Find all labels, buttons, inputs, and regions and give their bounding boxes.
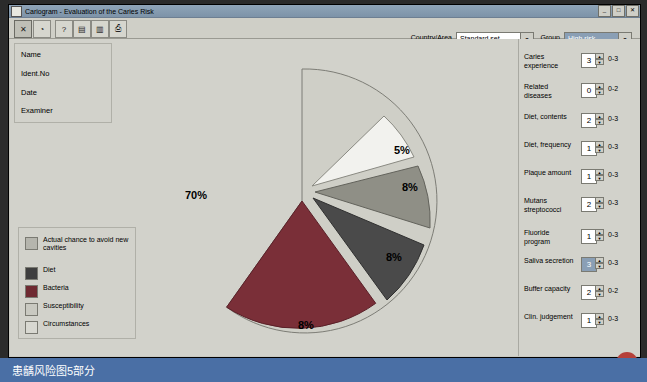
pie-label-circumstances: 5% — [394, 144, 410, 156]
legend: Actual chance to avoid new cavities Diet… — [18, 227, 136, 339]
param-row-diet-contents: Diet, contents 2 ▲ ▼ 0-3 — [519, 111, 640, 137]
maximize-button[interactable]: □ — [612, 5, 625, 17]
legend-label-chance: Actual chance to avoid new cavities — [43, 236, 131, 252]
field-name[interactable]: Name — [21, 50, 41, 59]
param-label-related-diseases: Related diseases — [524, 83, 574, 100]
legend-swatch-chance — [25, 237, 38, 250]
param-label-plaque-amount: Plaque amount — [524, 169, 574, 178]
param-spinner-buffer-capacity[interactable]: ▲ ▼ — [595, 285, 604, 298]
spinner-down-clin-judgement[interactable]: ▼ — [595, 319, 604, 325]
copy-icon[interactable]: ▥ — [91, 20, 109, 38]
pie-svg — [162, 61, 442, 341]
param-spinner-diet-frequency[interactable]: ▲ ▼ — [595, 141, 604, 154]
legend-swatch-bacteria — [25, 285, 38, 298]
param-spinner-clin-judgement[interactable]: ▲ ▼ — [595, 313, 604, 326]
param-range-caries-experience: 0-3 — [608, 55, 618, 62]
legend-swatch-circumstances — [25, 321, 38, 334]
param-row-buffer-capacity: Buffer capacity 2 ▲ ▼ 0-2 — [519, 283, 640, 309]
param-label-caries-experience: Caries experience — [524, 53, 574, 70]
spinner-down-mutans-streptococci[interactable]: ▼ — [595, 203, 604, 209]
param-spinner-diet-contents[interactable]: ▲ ▼ — [595, 113, 604, 126]
caption-bar: 患龋风险图5部分 — [0, 358, 647, 382]
legend-item-circumstances: Circumstances — [25, 320, 89, 334]
legend-swatch-diet — [25, 267, 38, 280]
legend-label-diet: Diet — [43, 266, 55, 274]
patient-form: Name Ident.No Date Examiner — [14, 43, 112, 123]
spinner-down-related-diseases[interactable]: ▼ — [595, 89, 604, 95]
spinner-down-saliva-secretion[interactable]: ▼ — [595, 263, 604, 269]
screenshot-root: Cariogram - Evaluation of the Caries Ris… — [0, 0, 647, 382]
param-row-plaque-amount: Plaque amount 1 ▲ ▼ 0-3 — [519, 167, 640, 193]
field-identno[interactable]: Ident.No — [21, 69, 49, 78]
pie-label-70: 70% — [185, 189, 207, 201]
param-range-mutans-streptococci: 0-3 — [608, 199, 618, 206]
pie-label-susceptibility: 8% — [402, 181, 418, 193]
field-date[interactable]: Date — [21, 88, 37, 97]
param-range-diet-frequency: 0-3 — [608, 143, 618, 150]
param-spinner-saliva-secretion[interactable]: ▲ ▼ — [595, 257, 604, 270]
spinner-down-plaque-amount[interactable]: ▼ — [595, 175, 604, 181]
spinner-down-diet-frequency[interactable]: ▼ — [595, 147, 604, 153]
param-label-diet-frequency: Diet, frequency — [524, 141, 574, 150]
legend-item-chance: Actual chance to avoid new cavities — [25, 236, 131, 252]
minimize-button[interactable]: _ — [598, 5, 611, 17]
application-window: Cariogram - Evaluation of the Caries Ris… — [8, 4, 641, 358]
spinner-down-caries-experience[interactable]: ▼ — [595, 59, 604, 65]
legend-label-bacteria: Bacteria — [43, 284, 69, 292]
chart-area: Name Ident.No Date Examiner — [10, 39, 518, 356]
param-spinner-caries-experience[interactable]: ▲ ▼ — [595, 53, 604, 66]
new-document-icon[interactable]: ✕ — [14, 20, 32, 38]
field-examiner[interactable]: Examiner — [21, 106, 53, 115]
title-bar: Cariogram - Evaluation of the Caries Ris… — [9, 5, 640, 18]
param-spinner-related-diseases[interactable]: ▲ ▼ — [595, 83, 604, 96]
spinner-down-fluoride-program[interactable]: ▼ — [595, 235, 604, 241]
legend-label-circumstances: Circumstances — [43, 320, 89, 328]
window-buttons: _ □ ✕ — [598, 5, 639, 17]
parameters-panel: Caries experience 3 ▲ ▼ 0-3 Related dise… — [518, 39, 640, 356]
param-row-related-diseases: Related diseases 0 ▲ ▼ 0-2 — [519, 81, 640, 107]
param-row-fluoride-program: Fluoride program 1 ▲ ▼ 0-3 — [519, 227, 640, 253]
pie-label-bacteria: 8% — [298, 319, 314, 331]
window-title: Cariogram - Evaluation of the Caries Ris… — [25, 8, 154, 15]
legend-item-bacteria: Bacteria — [25, 284, 69, 298]
param-range-saliva-secretion: 0-3 — [608, 259, 618, 266]
param-range-diet-contents: 0-3 — [608, 115, 618, 122]
app-icon — [11, 6, 22, 17]
param-range-plaque-amount: 0-3 — [608, 171, 618, 178]
param-row-saliva-secretion: Saliva secretion 3 ▲ ▼ 0-3 — [519, 255, 640, 281]
print-icon[interactable]: ⎙ — [109, 20, 127, 38]
param-label-saliva-secretion: Saliva secretion — [524, 257, 574, 266]
pie-chart-icon[interactable]: ◔ — [33, 20, 51, 38]
legend-item-diet: Diet — [25, 266, 55, 280]
param-spinner-plaque-amount[interactable]: ▲ ▼ — [595, 169, 604, 182]
param-label-mutans-streptococci: Mutans streptococci — [524, 197, 574, 214]
main-panel: Name Ident.No Date Examiner — [10, 39, 639, 356]
close-button[interactable]: ✕ — [626, 5, 639, 17]
param-range-clin-judgement: 0-3 — [608, 315, 618, 322]
param-range-fluoride-program: 0-3 — [608, 231, 618, 238]
legend-item-susceptibility: Susceptibility — [25, 302, 84, 316]
param-label-fluoride-program: Fluoride program — [524, 229, 574, 246]
param-label-clin-judgement: Clin. judgement — [524, 313, 574, 322]
pie-label-diet: 8% — [386, 251, 402, 263]
save-icon[interactable]: ▤ — [73, 20, 91, 38]
param-row-diet-frequency: Diet, frequency 1 ▲ ▼ 0-3 — [519, 139, 640, 165]
param-range-related-diseases: 0-2 — [608, 85, 618, 92]
param-row-mutans-streptococci: Mutans streptococci 2 ▲ ▼ 0-3 — [519, 195, 640, 221]
spinner-down-buffer-capacity[interactable]: ▼ — [595, 291, 604, 297]
legend-label-susceptibility: Susceptibility — [43, 302, 84, 310]
param-range-buffer-capacity: 0-2 — [608, 287, 618, 294]
param-label-diet-contents: Diet, contents — [524, 113, 574, 122]
help-icon[interactable]: ? — [55, 20, 73, 38]
cariogram-pie-chart: 70% 8% 8% 8% 5% — [162, 61, 442, 341]
param-row-clin-judgement: Clin. judgement 1 ▲ ▼ 0-3 — [519, 311, 640, 337]
param-spinner-mutans-streptococci[interactable]: ▲ ▼ — [595, 197, 604, 210]
param-spinner-fluoride-program[interactable]: ▲ ▼ — [595, 229, 604, 242]
param-row-caries-experience: Caries experience 3 ▲ ▼ 0-3 — [519, 51, 640, 77]
spinner-down-diet-contents[interactable]: ▼ — [595, 119, 604, 125]
toolbar: ✕ ◔ ? ▤ ▥ ⎙ Country/Area Standard set ▼ … — [9, 18, 640, 39]
param-label-buffer-capacity: Buffer capacity — [524, 285, 574, 294]
legend-swatch-susceptibility — [25, 303, 38, 316]
